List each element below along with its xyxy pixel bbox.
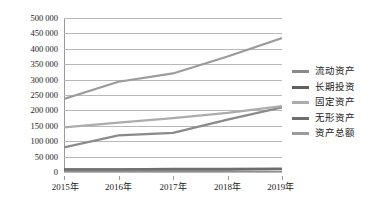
series-line <box>64 169 282 170</box>
y-axis-tick-label: 350 000 <box>0 60 58 69</box>
series-line <box>64 106 282 127</box>
y-axis-tick-label: 200 000 <box>0 106 58 115</box>
y-axis-tick-label: 500 000 <box>0 14 58 23</box>
y-axis-tick-label: 50 000 <box>0 152 58 161</box>
legend-color-swatch <box>292 132 309 135</box>
y-axis-tick-label: 0 <box>0 168 58 177</box>
legend-item-label: 固定资产 <box>315 98 355 108</box>
x-axis-tick-label: 2016年 <box>105 180 132 193</box>
legend-item[interactable]: 资产总额 <box>292 126 384 142</box>
y-axis-tick-label: 450 000 <box>0 29 58 38</box>
legend-item-label: 无形资产 <box>315 114 355 124</box>
line-chart: 050 000100 000150 000200 000250 000300 0… <box>0 0 385 211</box>
series-lines <box>64 18 282 172</box>
legend-item-label: 流动资产 <box>315 67 355 77</box>
x-axis-tick-label: 2015年 <box>52 180 79 193</box>
y-axis-tick-label: 250 000 <box>0 91 58 100</box>
legend-item-label: 资产总额 <box>315 129 355 139</box>
legend-item-label: 长期投资 <box>315 83 355 93</box>
legend-item[interactable]: 流动资产 <box>292 64 384 80</box>
legend-color-swatch <box>292 86 309 89</box>
x-axis-tick-label: 2018年 <box>214 180 241 193</box>
legend-color-swatch <box>292 70 309 73</box>
legend-item[interactable]: 无形资产 <box>292 111 384 127</box>
y-axis-tick-label: 100 000 <box>0 137 58 146</box>
legend-color-swatch <box>292 101 309 104</box>
gridline <box>64 172 282 173</box>
legend-item[interactable]: 长期投资 <box>292 80 384 96</box>
chart-legend: 流动资产长期投资固定资产无形资产资产总额 <box>292 64 384 142</box>
x-axis-tick-label: 2017年 <box>160 180 187 193</box>
series-line <box>64 38 282 99</box>
legend-item[interactable]: 固定资产 <box>292 95 384 111</box>
y-axis-tick-label: 300 000 <box>0 75 58 84</box>
series-line <box>64 107 282 147</box>
x-axis-tick-label: 2019年 <box>267 180 294 193</box>
x-axis-labels: 2015年2016年2017年2018年2019年 <box>64 176 282 198</box>
legend-color-swatch <box>292 117 309 120</box>
y-axis-tick-label: 150 000 <box>0 122 58 131</box>
y-axis-labels: 050 000100 000150 000200 000250 000300 0… <box>0 18 62 172</box>
y-axis-tick-label: 400 000 <box>0 45 58 54</box>
